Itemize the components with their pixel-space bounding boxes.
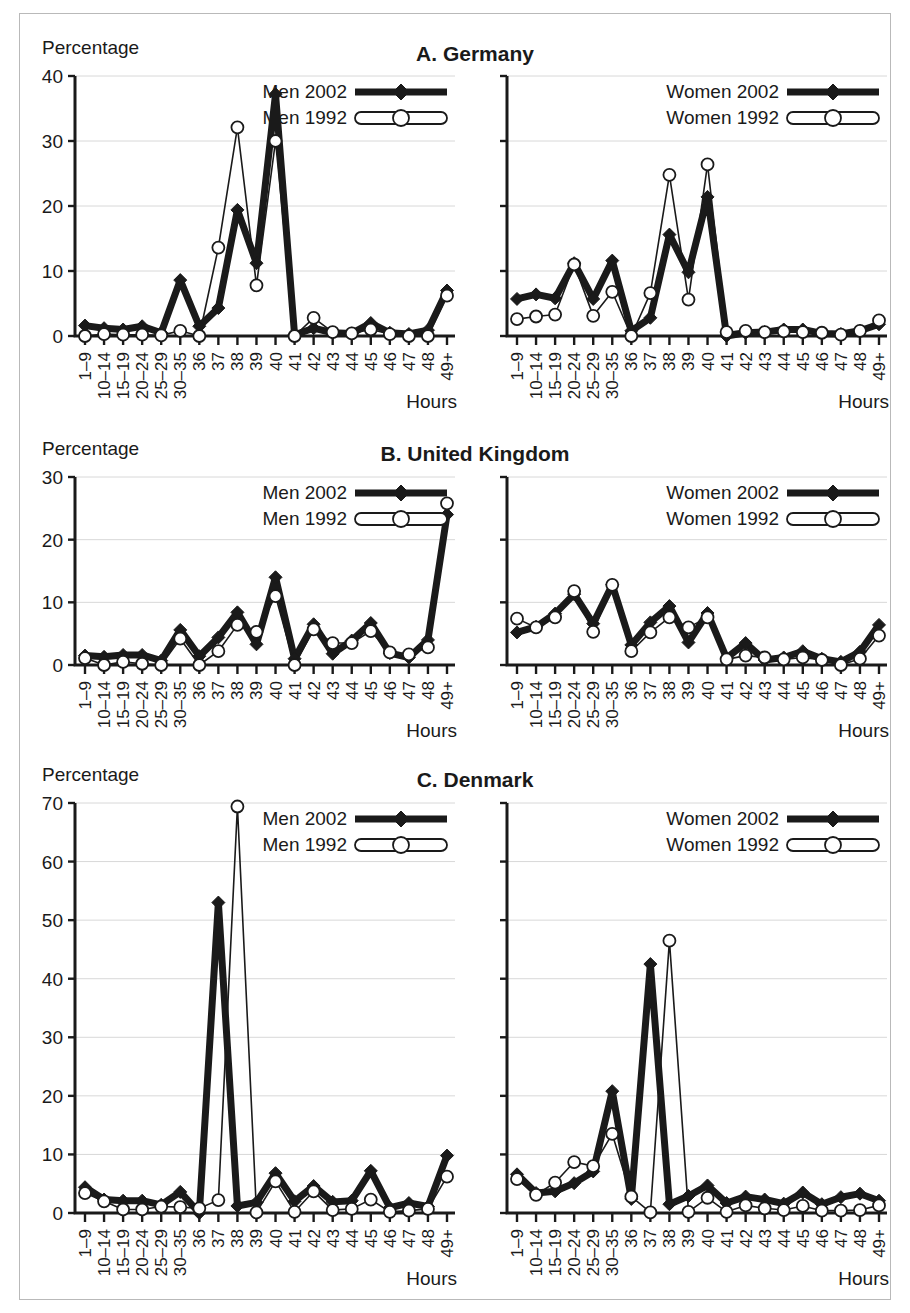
x-tick-label: 38 xyxy=(660,352,679,371)
data-point-marker xyxy=(98,659,110,671)
legend-label: Women 2002 xyxy=(666,808,779,829)
data-point-marker xyxy=(816,1205,828,1217)
y-tick-label: 0 xyxy=(52,326,63,347)
data-point-marker xyxy=(778,653,790,665)
data-point-marker xyxy=(231,1199,244,1212)
data-point-marker xyxy=(250,626,262,638)
x-axis-label: Hours xyxy=(838,1268,889,1289)
x-tick-label: 48 xyxy=(851,1229,870,1248)
axis-lines xyxy=(75,477,455,665)
data-point-marker xyxy=(778,1204,790,1216)
x-tick-label: 45 xyxy=(794,352,813,371)
x-tick-label: 39 xyxy=(679,681,698,700)
legend-diamond-icon xyxy=(825,485,841,501)
data-point-marker xyxy=(663,169,675,181)
legend-label: Women 2002 xyxy=(666,482,779,503)
data-point-marker xyxy=(441,497,453,509)
data-point-marker xyxy=(79,330,91,342)
data-point-marker xyxy=(663,611,675,623)
x-tick-label: 15–19 xyxy=(546,681,565,728)
y-tick-label: 10 xyxy=(42,1144,63,1165)
data-point-marker xyxy=(308,623,320,635)
x-tick-label: 46 xyxy=(381,352,400,371)
x-tick-label: 15–19 xyxy=(546,352,565,399)
data-point-marker xyxy=(117,1203,129,1215)
data-point-marker xyxy=(835,329,847,341)
data-point-marker xyxy=(587,310,599,322)
x-tick-label: 49+ xyxy=(870,352,889,381)
legend: Women 2002Women 1992 xyxy=(666,482,879,529)
y-tick-label: 0 xyxy=(52,1203,63,1224)
data-point-marker xyxy=(530,1189,542,1201)
data-point-marker xyxy=(174,1201,186,1213)
legend-circle-icon xyxy=(825,110,841,126)
data-point-marker xyxy=(854,325,866,337)
x-tick-label: 49+ xyxy=(438,681,457,710)
x-tick-label: 41 xyxy=(286,352,305,371)
data-point-marker xyxy=(682,1206,694,1218)
x-tick-label: 42 xyxy=(737,352,756,371)
legend-diamond-icon xyxy=(393,485,409,501)
x-tick-label: 36 xyxy=(190,352,209,371)
data-point-marker xyxy=(759,651,771,663)
data-point-marker xyxy=(873,314,885,326)
data-point-marker xyxy=(549,611,561,623)
data-point-marker xyxy=(644,287,656,299)
data-point-marker xyxy=(835,659,847,671)
data-point-marker xyxy=(193,330,205,342)
x-tick-label: 10–14 xyxy=(527,352,546,399)
x-tick-label: 46 xyxy=(381,1229,400,1248)
data-point-marker xyxy=(384,328,396,340)
legend-circle-icon xyxy=(393,511,409,527)
data-point-marker xyxy=(797,1200,809,1212)
data-point-marker xyxy=(250,279,262,291)
chart-title: B. United Kingdom xyxy=(381,442,570,465)
x-tick-label: 20–24 xyxy=(565,352,584,399)
legend-label: Women 2002 xyxy=(666,81,779,102)
data-point-marker xyxy=(270,135,282,147)
legend-label: Men 2002 xyxy=(262,808,347,829)
data-point-marker xyxy=(702,158,714,170)
y-tick-label: 40 xyxy=(42,66,63,87)
data-point-marker xyxy=(721,653,733,665)
data-point-marker xyxy=(308,312,320,324)
legend-label: Men 2002 xyxy=(262,482,347,503)
data-point-marker xyxy=(740,325,752,337)
data-point-marker xyxy=(346,327,358,339)
y-tick-label: 30 xyxy=(42,467,63,488)
x-tick-label: 42 xyxy=(737,681,756,700)
data-point-marker xyxy=(327,637,339,649)
series-line-women-1992 xyxy=(517,941,879,1213)
data-point-marker xyxy=(702,611,714,623)
data-point-marker xyxy=(511,613,523,625)
data-point-marker xyxy=(682,294,694,306)
data-point-marker xyxy=(682,621,694,633)
x-tick-label: 49+ xyxy=(438,352,457,381)
x-tick-label: 42 xyxy=(305,681,324,700)
y-tick-label: 70 xyxy=(42,793,63,814)
x-tick-label: 47 xyxy=(832,1229,851,1248)
x-tick-label: 44 xyxy=(775,681,794,700)
legend-circle-icon xyxy=(825,837,841,853)
data-point-marker xyxy=(644,626,656,638)
x-tick-label: 38 xyxy=(660,681,679,700)
data-point-marker xyxy=(797,326,809,338)
figure-frame: A. GermanyPercentage0102030401–910–1415–… xyxy=(19,13,891,1300)
data-point-marker xyxy=(422,330,434,342)
y-tick-label: 10 xyxy=(42,592,63,613)
x-tick-label: 42 xyxy=(737,1229,756,1248)
axis-lines xyxy=(507,477,887,665)
legend-diamond-icon xyxy=(393,811,409,827)
chart-panel-a-germany-women: 1–910–1415–1920–2425–2930–35363738394041… xyxy=(500,76,889,412)
legend-label: Men 1992 xyxy=(262,508,347,529)
x-tick-label: 1–9 xyxy=(508,1229,527,1257)
x-tick-label: 37 xyxy=(641,1229,660,1248)
legend: Men 2002Men 1992 xyxy=(262,482,447,529)
x-tick-label: 46 xyxy=(813,681,832,700)
x-tick-label: 43 xyxy=(756,1229,775,1248)
x-tick-label: 40 xyxy=(267,681,286,700)
x-tick-label: 44 xyxy=(343,681,362,700)
x-tick-label: 49+ xyxy=(870,1229,889,1258)
legend-label: Women 1992 xyxy=(666,107,779,128)
x-tick-label: 20–24 xyxy=(133,352,152,399)
